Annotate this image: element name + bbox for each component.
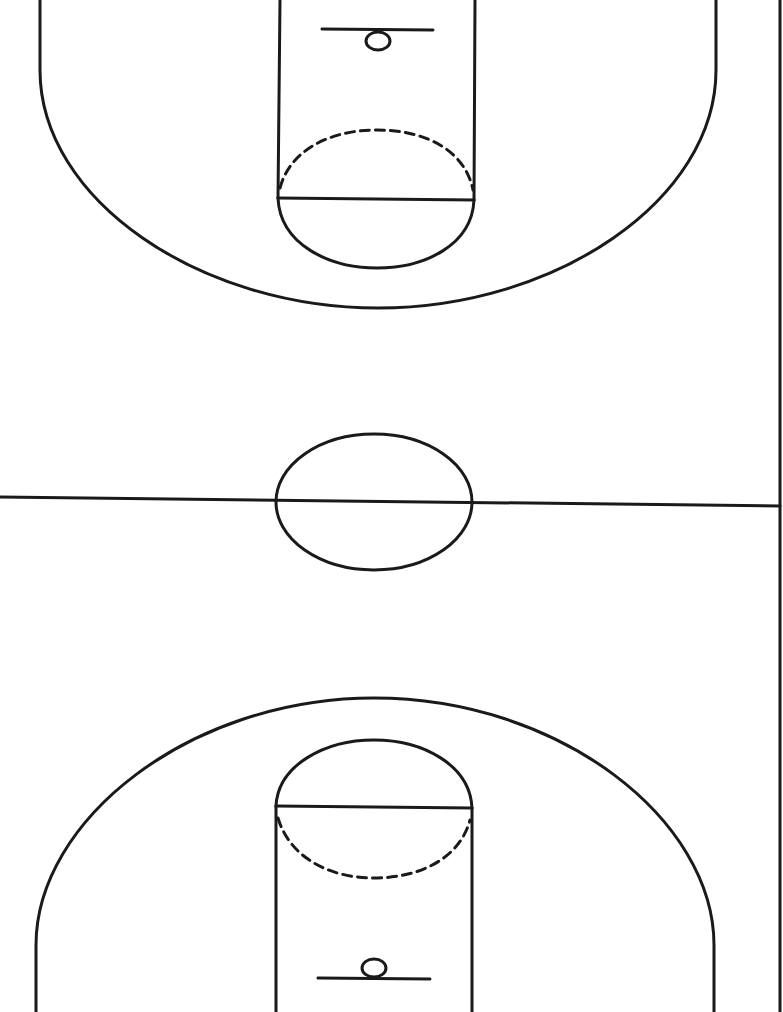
bottom-three-point-arc [36, 698, 714, 1012]
top-three-point-arc [40, 0, 716, 308]
bottom-free-throw-line [276, 806, 472, 808]
top-free-throw-circle-dashed [280, 130, 473, 190]
bottom-free-throw-circle-solid [276, 740, 472, 808]
top-lane-left [278, 0, 280, 198]
top-free-throw-line [278, 198, 474, 200]
top-free-throw-circle-solid [278, 198, 474, 268]
top-lane-right [474, 0, 475, 200]
basketball-court [0, 0, 783, 1012]
top-backboard [322, 29, 433, 30]
bottom-hoop [362, 959, 386, 977]
top-hoop [366, 32, 390, 50]
bottom-free-throw-circle-dashed [278, 818, 470, 878]
half-court-line [0, 497, 780, 506]
